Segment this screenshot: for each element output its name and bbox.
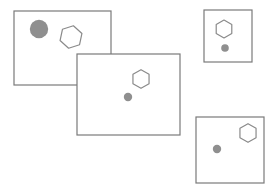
shape-arrangement-svg bbox=[0, 0, 275, 194]
figure-canvas bbox=[0, 0, 275, 194]
panel-top-right bbox=[204, 10, 252, 62]
panel-bottom-right bbox=[196, 117, 264, 183]
circle-filled-bottom bbox=[213, 145, 221, 153]
panel-center bbox=[77, 54, 180, 135]
circle-filled-large bbox=[30, 20, 48, 38]
circle-filled-small bbox=[221, 44, 229, 52]
circle-filled-medium bbox=[124, 93, 132, 101]
